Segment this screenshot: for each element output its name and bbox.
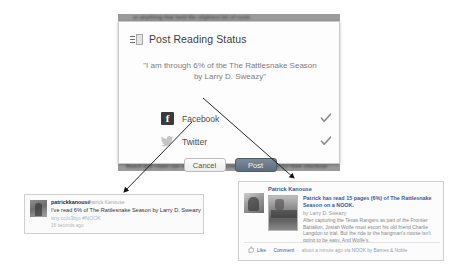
facebook-post-description: After capturing the Texas Rangers as par… [303,217,439,243]
facebook-post-headline[interactable]: Patrick has read 15 pages (6%) of The Ra… [303,195,439,209]
status-quote-text: "I am through 6% of the The Rattlesnake … [139,60,321,82]
facebook-post-footer: Like · Comment · about a minute ago via … [247,246,439,254]
footer-separator-1: · [269,248,271,253]
facebook-post-card: Patrick Kanouse Patrick has read 15 page… [238,181,444,261]
dialog-button-row: Cancel Post [119,158,341,172]
background-text-top: or anything that held the slightest bit … [133,14,250,20]
screenshot-root: or anything that held the slightest bit … [0,0,454,270]
twitter-post-link[interactable]: tiny.cc/u3bjn #NOOK [51,215,101,221]
twitter-post-timestamp: 16 seconds ago [51,223,83,228]
twitter-real-name: Patrick Kanouse [88,199,124,205]
like-button[interactable]: Like [257,248,266,253]
book-cover-thumbnail[interactable] [268,195,298,231]
comment-button[interactable]: Comment [273,248,294,253]
service-row-twitter[interactable]: Twitter [161,135,321,148]
dialog-header: Post Reading Status [130,33,247,45]
checkmark-icon-facebook[interactable] [320,112,332,124]
cancel-button[interactable]: Cancel [184,158,226,172]
twitter-post-text: I've read 6% of The Rattlesnake Season b… [51,207,201,213]
post-reading-status-dialog: Post Reading Status "I am through 6% of … [118,21,340,164]
facebook-author-name[interactable]: Patrick Kanouse [268,186,312,192]
service-row-facebook[interactable]: f Facebook [161,112,321,125]
service-label-twitter: Twitter [182,137,207,147]
service-label-facebook: Facebook [182,114,219,124]
book-badge-icon [130,34,143,45]
twitter-handle[interactable]: patrickkanouse [51,199,91,205]
divider [244,242,440,243]
facebook-post-time: about a minute ago via [302,248,352,253]
facebook-post-byline: by Larry D. Sweazy [303,210,346,216]
footer-separator-2: · [297,248,299,253]
thumbs-up-icon[interactable] [247,246,254,254]
avatar [244,193,264,213]
avatar [30,200,47,217]
facebook-icon: f [161,112,174,125]
checkmark-icon-twitter[interactable] [320,135,332,147]
facebook-post-meta: about a minute ago via NOOK by Barnes & … [302,248,407,253]
dialog-title: Post Reading Status [149,33,247,45]
post-button[interactable]: Post [235,158,277,172]
facebook-post-source[interactable]: NOOK by Barnes & Noble [352,248,407,253]
twitter-bird-icon [161,135,174,148]
twitter-post-card: patrickkanouse Patrick Kanouse I've read… [24,194,204,234]
